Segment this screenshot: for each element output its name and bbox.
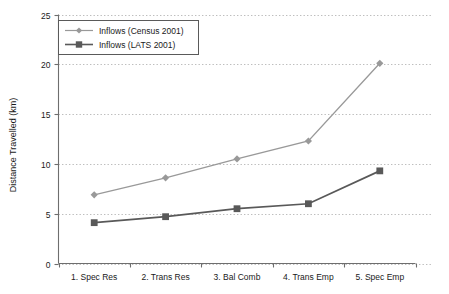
legend-label-census: Inflows (Census 2001) xyxy=(99,26,184,36)
y-tick-label: 0 xyxy=(46,260,51,270)
data-point-marker[interactable] xyxy=(376,167,383,174)
y-tick-label: 20 xyxy=(41,60,51,70)
x-axis-category-label: 3. Bal Comb xyxy=(214,272,261,282)
line-chart: 0510152025 1. Spec Res2. Trans Res3. Bal… xyxy=(0,0,449,294)
square-marker-icon xyxy=(76,41,82,47)
y-tick-label: 15 xyxy=(41,110,51,120)
data-point-marker[interactable] xyxy=(234,205,241,212)
data-point-marker[interactable] xyxy=(91,219,98,226)
x-axis-category-label: 2. Trans Res xyxy=(142,272,190,282)
x-axis-category-label: 4. Trans Emp xyxy=(283,272,334,282)
x-axis-category-label: 5. Spec Emp xyxy=(355,272,404,282)
x-axis-category-label: 1. Spec Res xyxy=(71,272,117,282)
y-tick-label: 5 xyxy=(46,210,51,220)
data-point-marker[interactable] xyxy=(305,200,312,207)
y-axis-title: Distance Travelled (km) xyxy=(8,98,18,193)
chart-canvas: 0510152025 1. Spec Res2. Trans Res3. Bal… xyxy=(0,0,449,294)
y-tick-label: 10 xyxy=(41,160,51,170)
data-point-marker[interactable] xyxy=(162,213,169,220)
y-tick-label: 25 xyxy=(41,11,51,21)
legend[interactable]: Inflows (Census 2001) Inflows (LATS 2001… xyxy=(59,21,199,55)
legend-label-lats: Inflows (LATS 2001) xyxy=(99,40,176,50)
